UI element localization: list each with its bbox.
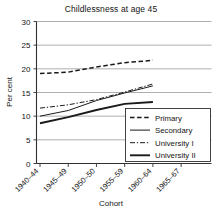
y-tick-label: 5 [26, 136, 31, 145]
line-chart-plot: 051015202530 1940–441945–491950–501955–5… [0, 0, 222, 212]
x-axis-ticks-group: 1940–441945–491950–501955–591960–641965–… [13, 164, 181, 194]
x-tick-label: 1940–44 [13, 167, 40, 194]
y-tick-label: 10 [22, 112, 31, 121]
legend-label-university-ii: University II [155, 151, 196, 160]
y-tick-label: 15 [22, 89, 31, 98]
y-tick-label: 20 [22, 65, 31, 74]
y-tick-label: 25 [22, 41, 31, 50]
x-tick-label: 1960–64 [126, 167, 153, 194]
chart-legend[interactable]: PrimarySecondaryUniversity IUniversity I… [126, 109, 211, 162]
legend-label-university-i: University I [155, 139, 194, 148]
y-axis-title: Per cent [5, 76, 14, 107]
x-tick-label: 1965–67 [154, 167, 181, 194]
series-line-primary [40, 60, 153, 73]
y-axis-ticks-group: 051015202530 [22, 18, 37, 169]
legend-label-primary: Primary [155, 114, 182, 123]
x-tick-label: 1950–50 [70, 167, 97, 194]
legend-label-secondary: Secondary [155, 126, 192, 135]
x-tick-label: 1945–49 [41, 167, 68, 194]
x-tick-label: 1955–59 [98, 167, 125, 194]
chart-figure: Childlessness at age 45 051015202530 194… [0, 0, 222, 212]
y-tick-label: 0 [26, 160, 31, 169]
series-line-university-i [40, 84, 153, 108]
y-tick-label: 30 [22, 18, 31, 27]
x-axis-title: Cohort [99, 199, 124, 208]
